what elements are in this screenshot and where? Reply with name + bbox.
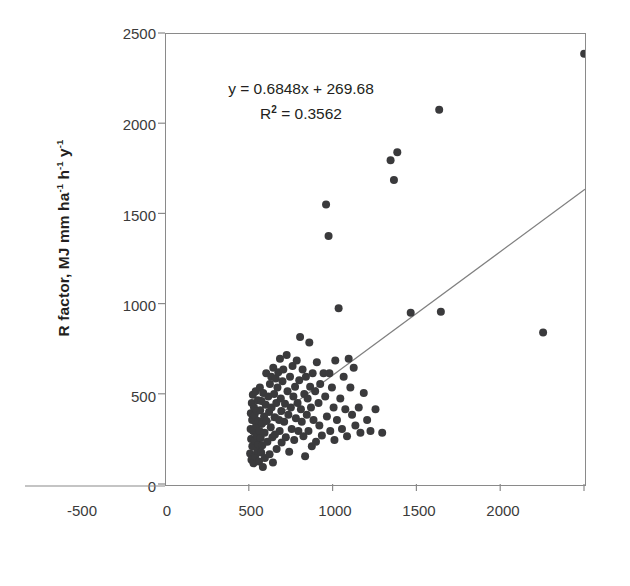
r-squared-number: = 0.3562 (277, 105, 342, 122)
data-point (267, 423, 275, 431)
data-point (282, 433, 290, 441)
data-point (325, 369, 333, 377)
trendline (250, 189, 585, 436)
data-point (331, 357, 339, 365)
data-point (296, 333, 304, 341)
data-point (277, 407, 285, 415)
data-point (437, 308, 445, 316)
data-point (299, 366, 307, 374)
data-point (363, 416, 371, 424)
data-point (307, 403, 315, 411)
x-tick-label-2000: 2000 (468, 503, 538, 518)
data-point (580, 50, 585, 58)
data-point (393, 148, 401, 156)
data-point (378, 429, 386, 437)
data-point (407, 309, 415, 317)
data-point (280, 418, 288, 426)
regression-equation: y = 0.6848x + 269.68 (186, 76, 416, 101)
data-point (309, 416, 317, 424)
data-point (309, 369, 317, 377)
data-point (303, 411, 311, 419)
y-axis-title: R factor, MJ mm ha-1 h-1 y-1 (44, 28, 84, 448)
data-point (286, 373, 294, 381)
data-point (312, 438, 320, 446)
data-point (346, 384, 354, 392)
data-point (325, 232, 333, 240)
data-point (390, 176, 398, 184)
r-squared-label: R (260, 105, 271, 122)
y-tick-label-500: 500 (98, 389, 156, 404)
data-point (297, 405, 305, 413)
x-tick-label-minus500: -500 (47, 503, 117, 518)
y-tick-marks (158, 33, 165, 484)
data-point (273, 445, 281, 453)
data-point (311, 387, 319, 395)
data-point (360, 389, 368, 397)
data-point (539, 329, 547, 337)
x-tick-label-0: 0 (132, 503, 202, 518)
data-point (351, 421, 359, 429)
data-point (278, 377, 286, 385)
data-point (315, 421, 323, 429)
data-point (301, 452, 309, 460)
data-point (318, 431, 326, 439)
data-point (316, 380, 324, 388)
data-point (304, 427, 312, 435)
data-point (287, 403, 295, 411)
data-point (304, 394, 312, 402)
data-point (321, 393, 329, 401)
data-point (330, 436, 338, 444)
y-axis-title-text: R factor, MJ mm ha-1 h-1 y-1 (55, 140, 73, 337)
x-tick-label-1000: 1000 (300, 503, 370, 518)
data-point (387, 156, 395, 164)
data-point (288, 425, 296, 433)
data-point (372, 405, 380, 413)
data-point (343, 432, 351, 440)
y-tick-label-2500: 2500 (98, 26, 156, 41)
data-point (435, 106, 443, 114)
x-tick-label-1500: 1500 (384, 503, 454, 518)
data-point (336, 394, 344, 402)
data-point (333, 416, 341, 424)
data-point (330, 403, 338, 411)
data-point (315, 399, 323, 407)
y-tick-label-0: 0 (98, 479, 156, 494)
data-point (266, 380, 274, 388)
data-point (298, 418, 306, 426)
data-point (283, 351, 291, 359)
data-point (350, 364, 358, 372)
data-point (335, 304, 343, 312)
y-tick-label-1000: 1000 (98, 298, 156, 313)
data-point (269, 458, 277, 466)
data-point (284, 387, 292, 395)
data-point (279, 366, 287, 374)
data-point (366, 427, 374, 435)
data-point (340, 373, 348, 381)
y-tick-label-2000: 2000 (98, 117, 156, 132)
data-point (341, 405, 349, 413)
r-squared-value: R2 = 0.3562 (186, 101, 416, 126)
data-point (323, 412, 331, 420)
data-point (313, 358, 321, 366)
y-tick-label-1500: 1500 (98, 208, 156, 223)
data-point (293, 357, 301, 365)
data-point (338, 425, 346, 433)
data-point (273, 384, 281, 392)
data-point (259, 463, 267, 471)
data-point (285, 448, 293, 456)
data-point (326, 427, 334, 435)
data-point (355, 403, 363, 411)
data-point (322, 200, 330, 208)
scatter-plot-figure: R factor, MJ mm ha-1 h-1 y-1 2500 2000 1… (0, 0, 630, 586)
data-point (266, 450, 274, 458)
regression-annotation: y = 0.6848x + 269.68 R2 = 0.3562 (186, 76, 416, 126)
data-point (356, 429, 364, 437)
data-point (305, 338, 313, 346)
data-point (276, 427, 284, 435)
x-tick-label-500: 500 (216, 503, 286, 518)
data-point (345, 355, 353, 363)
data-point (290, 436, 298, 444)
data-point (284, 411, 292, 419)
data-point (328, 384, 336, 392)
data-point (348, 411, 356, 419)
